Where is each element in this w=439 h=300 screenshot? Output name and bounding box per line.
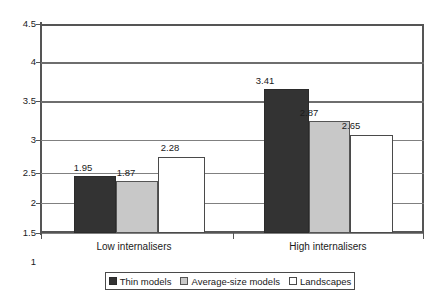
bar-low-thin-models[interactable] xyxy=(74,176,116,233)
bar-low-landscapes[interactable] xyxy=(158,157,205,233)
y-tick-label: 3 xyxy=(6,135,36,145)
y-tick-label: 3.5 xyxy=(6,96,36,106)
x-tick-mid xyxy=(233,233,234,239)
bar-value-low-thin: 1.95 xyxy=(60,162,106,173)
y-tick-label: 4.5 xyxy=(6,19,36,29)
bar-value-high-landscapes: 2.65 xyxy=(328,120,374,131)
bar-value-high-average: 2.87 xyxy=(286,107,332,118)
bar-high-average-size-models[interactable] xyxy=(309,121,350,233)
y-tick-label: 2 xyxy=(6,198,36,208)
legend-swatch-icon xyxy=(289,277,297,285)
bar-value-low-average: 1.87 xyxy=(103,167,149,178)
category-label-high-internalisers: High internalisers xyxy=(258,241,398,253)
legend-swatch-icon xyxy=(180,277,188,285)
legend-label: Average-size models xyxy=(191,276,280,287)
bar-low-average-size-models[interactable] xyxy=(116,181,158,233)
legend-label: Landscapes xyxy=(300,276,351,287)
legend-swatch-icon xyxy=(109,277,117,285)
x-tick-start xyxy=(41,233,42,239)
legend-label: Thin models xyxy=(120,276,172,287)
legend-item-average-size-models[interactable]: Average-size models xyxy=(180,276,280,287)
y-tick-label: 1.5 xyxy=(6,228,36,238)
category-label-low-internalisers: Low internalisers xyxy=(64,241,204,253)
legend-item-thin-models[interactable]: Thin models xyxy=(109,276,172,287)
legend-item-landscapes[interactable]: Landscapes xyxy=(289,276,351,287)
y-tick-label: 1 xyxy=(6,257,36,267)
bar-high-landscapes[interactable] xyxy=(350,135,393,234)
bar-value-high-thin: 3.41 xyxy=(242,75,288,86)
y-tick-label: 2.5 xyxy=(6,168,36,178)
chart-legend: Thin models Average-size models Landscap… xyxy=(105,272,355,290)
x-tick-end xyxy=(423,233,424,239)
y-tick-label: 4 xyxy=(6,57,36,67)
bar-value-low-landscapes: 2.28 xyxy=(147,142,193,153)
bar-chart: 4.5 4 3.5 3 2.5 2 1.5 1 1.95 1.87 2.28 xyxy=(0,0,439,300)
